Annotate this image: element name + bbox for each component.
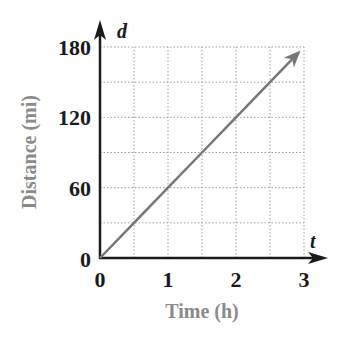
- y-tick-label: 120: [58, 105, 91, 130]
- y-axis-variable: d: [117, 20, 128, 42]
- y-tick-label: 0: [80, 247, 91, 272]
- chart-canvas: 0123 060120180 d t Time (h) Distance (mi…: [0, 0, 342, 347]
- x-tick-label: 2: [231, 267, 242, 292]
- y-tick-labels: 060120180: [58, 35, 91, 272]
- data-series: [100, 51, 301, 258]
- x-tick-label: 1: [163, 267, 174, 292]
- x-tick-label: 3: [299, 267, 310, 292]
- x-tick-labels: 0123: [95, 267, 310, 292]
- x-axis-variable: t: [310, 230, 317, 252]
- x-axis-title: Time (h): [165, 300, 239, 323]
- series-line: [100, 59, 292, 258]
- distance-time-chart: 0123 060120180 d t Time (h) Distance (mi…: [0, 0, 342, 347]
- y-tick-label: 180: [58, 35, 91, 60]
- y-axis-title: Distance (mi): [18, 95, 41, 209]
- x-tick-label: 0: [95, 267, 106, 292]
- y-tick-label: 60: [69, 176, 91, 201]
